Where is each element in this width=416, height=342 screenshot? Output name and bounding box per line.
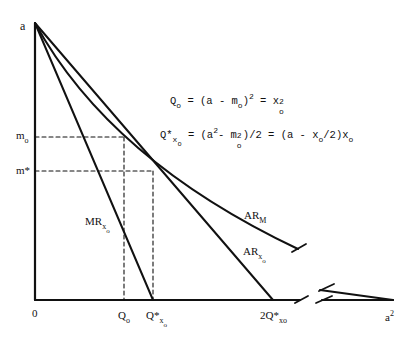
mr-label: MRxo [85, 216, 110, 227]
eq1-part3-sup: 2 [279, 98, 284, 106]
q-o-sub: o [126, 316, 130, 325]
eq1-lhs-sub: o [176, 101, 181, 110]
m-o-sub: o [25, 136, 29, 145]
m-o-base: m [16, 129, 25, 141]
q-star-base: Q* [146, 309, 159, 321]
ar-tail-line [320, 290, 393, 300]
eq2-part2: - m [218, 129, 237, 141]
q-star-xo-label: Q*xo [146, 310, 167, 321]
x-axis-end-label: a2 [385, 312, 394, 323]
mr-base: MR [85, 215, 102, 227]
ar-m-sub: M [259, 216, 266, 225]
eq1-part1-sub: o [238, 101, 243, 110]
eq1-part1: = (a - m [181, 95, 238, 107]
eq2-lhs-subsub: o [177, 140, 181, 148]
q-o-label: Qo [118, 310, 130, 321]
eq2-part2-sup: 2 [237, 132, 242, 140]
eq2-lhs: Q* [160, 129, 173, 141]
equation-q-o: Qo = (a - mo)2 = x2o [170, 96, 286, 107]
economics-diagram: a 0 a2 mo m* Qo Q*xo 2Q*xo MRxo ARM ARxo… [0, 0, 416, 342]
m-star-label: m* [16, 165, 30, 176]
q-star-subsub: o [163, 321, 167, 329]
ar-xo-label: ARxo [243, 246, 266, 257]
eq1-part3-sub: o [279, 108, 284, 116]
ar-xo-base: AR [243, 245, 258, 257]
q-o-base: Q [118, 309, 126, 321]
two-q-star-base: 2Q* [260, 309, 279, 321]
two-q-star-sub: xo [279, 316, 287, 325]
eq1-part3: = x [254, 95, 279, 107]
origin-label: 0 [32, 308, 38, 319]
two-q-star-xo-label: 2Q*xo [260, 310, 287, 321]
x-axis-end-sup: 2 [390, 309, 394, 318]
eq1-part2-sup: 2 [249, 92, 254, 101]
ar-m-label: ARM [244, 210, 266, 221]
eq2-part4: /2)x [323, 129, 348, 141]
y-axis-top-label: a [20, 20, 25, 32]
ar-xo-subsub: o [262, 257, 266, 265]
m-o-label: mo [16, 130, 29, 141]
equation-q-star: Q*xo = (a2- m2o)/2 = (a - xo/2)xo [160, 130, 353, 141]
eq2-part2-sub: o [237, 142, 242, 150]
mr-subsub: o [106, 227, 110, 235]
diagram-lines [0, 0, 416, 342]
eq2-part4-sub: o [349, 135, 354, 144]
eq2-part3-sub: o [318, 135, 323, 144]
eq2-part1-sup: 2 [213, 126, 218, 135]
eq2-part3: )/2 = (a - x [243, 129, 319, 141]
ar-m-base: AR [244, 209, 259, 221]
eq2-part1: = (a [182, 129, 214, 141]
mr-curve [35, 23, 153, 300]
